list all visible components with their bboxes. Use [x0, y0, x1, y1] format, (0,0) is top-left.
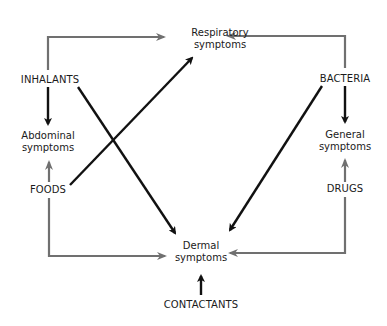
node-contactants: CONTACTANTS	[164, 299, 239, 311]
node-general-symptoms: General symptoms	[319, 129, 371, 153]
node-respiratory-symptoms: Respiratory symptoms	[191, 27, 248, 51]
edge-drugs-dermal	[230, 197, 345, 253]
node-drugs: DRUGS	[327, 183, 364, 195]
node-foods: FOODS	[30, 184, 66, 196]
respiratory-line2: symptoms	[191, 39, 248, 51]
abdominal-line2: symptoms	[21, 142, 74, 154]
abdominal-line1: Abdominal	[21, 130, 74, 142]
node-inhalants: INHALANTS	[21, 74, 79, 86]
edge-bacteria-dermal	[230, 86, 322, 230]
dermal-line2: symptoms	[175, 252, 227, 264]
node-abdominal-symptoms: Abdominal symptoms	[21, 130, 74, 154]
node-bacteria: BACTERIA	[320, 73, 370, 85]
respiratory-line1: Respiratory	[191, 27, 248, 39]
general-line2: symptoms	[319, 141, 371, 153]
node-dermal-symptoms: Dermal symptoms	[175, 240, 227, 264]
dermal-line1: Dermal	[175, 240, 227, 252]
general-line1: General	[319, 129, 371, 141]
edge-foods-dermal	[49, 198, 165, 256]
edge-inhalants-respiratory	[48, 37, 164, 70]
